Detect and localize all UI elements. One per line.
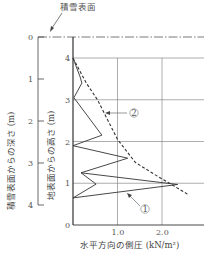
height-tick-label: 1 (65, 179, 70, 188)
series-1-leader (130, 196, 140, 206)
snow-surface-leader (52, 13, 62, 28)
height-tick-label: 0 (65, 221, 70, 230)
depth-axis-title: 積雪表面からの深さ (m) (6, 112, 16, 210)
height-axis-title: 地表面からの高さ (m) (46, 111, 56, 200)
x-tick-label: 2.0 (156, 228, 169, 237)
depth-axis: 01234 (28, 33, 44, 210)
plot-area: 012341.02.021 (65, 37, 204, 237)
x-axis-title: 水平方向の側圧 (kN/m²) (80, 240, 179, 250)
series-2-label: 2 (131, 108, 136, 118)
depth-tick-label: 1 (28, 75, 33, 84)
height-tick-label: 4 (65, 54, 70, 63)
height-tick-label: 3 (65, 96, 70, 105)
snow-surface-label: 積雪表面 (60, 2, 96, 12)
series-1-label: 1 (142, 204, 147, 214)
series-2-arrowhead (105, 111, 110, 115)
depth-tick-label: 4 (28, 201, 33, 210)
snow-pressure-chart: 積雪表面 01234 012341.02.021 積雪表面からの深さ (m) 地… (0, 0, 217, 264)
depth-tick-label: 3 (28, 159, 33, 168)
leader-arrowhead (50, 26, 54, 32)
x-tick-label: 1.0 (112, 228, 125, 237)
depth-tick-label: 2 (28, 117, 33, 126)
depth-tick-label: 0 (28, 33, 33, 42)
height-tick-label: 2 (65, 138, 70, 147)
